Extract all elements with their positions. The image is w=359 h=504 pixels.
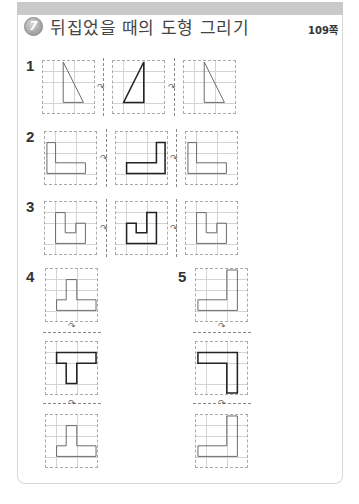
section-number-badge: 7 bbox=[24, 17, 43, 36]
grid-result bbox=[183, 60, 236, 114]
triangle-shape bbox=[43, 61, 94, 113]
grid-original bbox=[44, 131, 97, 185]
grid-result bbox=[195, 414, 248, 468]
triangle-shape bbox=[184, 61, 235, 113]
flip-line bbox=[193, 332, 251, 333]
step-shape bbox=[45, 202, 96, 254]
problem-number-1: 1 bbox=[26, 57, 34, 74]
step-shape bbox=[186, 202, 237, 254]
inverted-t-shape bbox=[46, 269, 97, 321]
flip-arrow-icon: ↷ bbox=[170, 154, 178, 163]
problem-number-5: 5 bbox=[178, 268, 186, 285]
grid-original bbox=[195, 268, 248, 322]
t-shape-flipped bbox=[46, 342, 97, 394]
grid-original bbox=[45, 268, 98, 322]
grid-answer bbox=[112, 60, 165, 114]
grid-result bbox=[45, 414, 98, 468]
flip-arrow-icon: ↷ bbox=[100, 224, 108, 233]
problem-number-4: 4 bbox=[26, 268, 34, 285]
grid-answer bbox=[115, 201, 168, 255]
grid-original bbox=[42, 60, 95, 114]
inverted-t-shape bbox=[46, 415, 97, 467]
flip-arrow-icon: ↷ bbox=[218, 399, 226, 408]
flip-arrow-icon: ↷ bbox=[218, 322, 226, 331]
flip-arrow-icon: ↷ bbox=[68, 322, 76, 331]
grid-result bbox=[185, 131, 238, 185]
triangle-shape-flipped bbox=[113, 61, 164, 113]
problem-number-3: 3 bbox=[26, 198, 34, 215]
flip-arrow-icon: ↷ bbox=[168, 83, 176, 92]
grid-answer bbox=[195, 341, 248, 395]
l-shape bbox=[186, 132, 237, 184]
flip-arrow-icon: ↷ bbox=[170, 224, 178, 233]
page-title: 뒤집었을 때의 도형 그리기 bbox=[50, 14, 249, 39]
flip-line bbox=[43, 332, 101, 333]
flip-arrow-icon: ↷ bbox=[100, 154, 108, 163]
grid-answer bbox=[45, 341, 98, 395]
step-shape-flipped bbox=[116, 202, 167, 254]
grid-result bbox=[185, 201, 238, 255]
l-shape bbox=[196, 415, 247, 467]
flip-arrow-icon: ↷ bbox=[97, 83, 105, 92]
grid-answer bbox=[115, 131, 168, 185]
l-shape-flipped bbox=[196, 342, 247, 394]
grid-original bbox=[44, 201, 97, 255]
page-reference: 109쪽 bbox=[308, 22, 338, 37]
flip-arrow-icon: ↷ bbox=[68, 399, 76, 408]
problem-number-2: 2 bbox=[26, 128, 34, 145]
l-shape bbox=[45, 132, 96, 184]
l-shape-flipped bbox=[116, 132, 167, 184]
l-shape bbox=[196, 269, 247, 321]
